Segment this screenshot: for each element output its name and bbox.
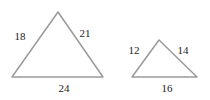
large-triangle-fill [12, 12, 103, 77]
large-triangle-left-side-label: 18 [15, 30, 27, 42]
geometry-figure-canvas: 18 21 24 12 14 16 [0, 0, 210, 100]
small-triangle: 12 14 16 [129, 40, 198, 94]
triangles-diagram: 18 21 24 12 14 16 [0, 0, 210, 100]
small-triangle-right-side-label: 14 [178, 44, 190, 56]
large-triangle: 18 21 24 [12, 12, 103, 94]
small-triangle-base-label: 16 [162, 82, 174, 94]
small-triangle-left-side-label: 12 [129, 44, 140, 56]
large-triangle-base-label: 24 [59, 82, 71, 94]
large-triangle-right-side-label: 21 [80, 27, 91, 39]
